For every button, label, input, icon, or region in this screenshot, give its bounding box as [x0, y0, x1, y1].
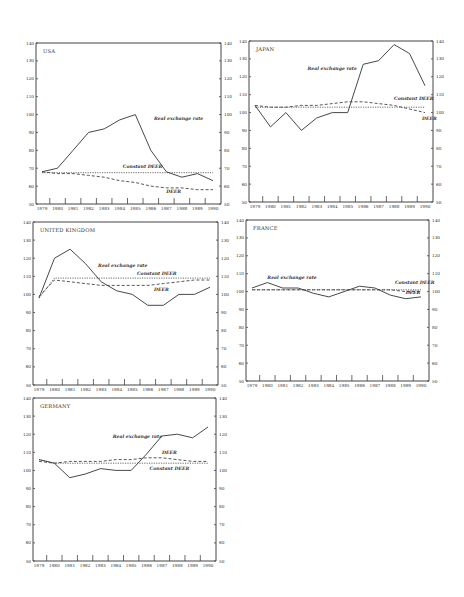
panel-title: FRANCE [253, 225, 278, 231]
y-tick-label-left: 60 [26, 364, 32, 369]
x-tick-label: 1990 [420, 204, 431, 209]
chart-panel-usa: 5050606070708080909010010011011012012013… [26, 41, 232, 212]
y-tick-label-left: 120 [23, 256, 31, 261]
y-tick-label-right: 90 [224, 130, 230, 135]
y-tick-label-left: 70 [26, 346, 32, 351]
x-tick-label: 1985 [130, 206, 141, 211]
y-tick-label-left: 100 [26, 112, 34, 117]
y-tick-label-left: 70 [239, 343, 245, 348]
y-tick-label-right: 80 [432, 325, 438, 330]
y-tick-label-right: 110 [219, 450, 227, 455]
y-tick-label-left: 140 [236, 218, 244, 223]
series-annotation: DEER [165, 189, 181, 194]
panel-title: UNITED KINGDOM [40, 227, 96, 233]
x-tick-label: 1979 [247, 383, 258, 388]
x-tick-label: 1990 [203, 563, 214, 568]
x-tick-label: 1988 [389, 204, 400, 209]
y-tick-label-left: 80 [26, 504, 32, 509]
y-tick-label-right: 70 [224, 166, 230, 171]
y-tick-label-left: 50 [29, 202, 35, 207]
x-tick-label: 1981 [281, 204, 292, 209]
y-tick-label-left: 120 [236, 253, 244, 258]
x-tick-label: 1980 [262, 383, 273, 388]
y-tick-label-right: 70 [219, 522, 225, 527]
series-deer [39, 280, 210, 296]
x-tick-label: 1989 [404, 204, 415, 209]
chart-panel-germany: 5050606070708080909010010011011012012013… [23, 396, 227, 569]
x-tick-label: 1983 [308, 383, 319, 388]
x-tick-label: 1979 [34, 387, 45, 392]
y-tick-label-right: 60 [221, 364, 227, 369]
chart-panel-japan: 5050606070708080909010010011011012012013… [239, 39, 444, 210]
y-tick-label-right: 80 [219, 504, 225, 509]
y-tick-label-left: 110 [239, 92, 247, 97]
y-tick-label-left: 50 [26, 383, 32, 388]
y-tick-label-left: 80 [26, 328, 32, 333]
y-tick-label-right: 120 [432, 253, 440, 258]
y-tick-label-right: 140 [221, 220, 229, 225]
y-tick-label-left: 60 [26, 540, 32, 545]
y-tick-label-right: 140 [436, 39, 444, 44]
x-tick-label: 1984 [114, 206, 125, 211]
y-tick-label-left: 130 [26, 58, 34, 63]
y-tick-label-left: 130 [23, 414, 31, 419]
x-tick-label: 1985 [339, 383, 350, 388]
x-tick-label: 1988 [177, 206, 188, 211]
x-tick-label: 1980 [49, 387, 60, 392]
y-tick-label-left: 60 [29, 184, 35, 189]
y-tick-label-left: 80 [239, 325, 245, 330]
plot-frame [246, 220, 429, 381]
x-tick-label: 1985 [342, 204, 353, 209]
y-tick-label-left: 70 [26, 522, 32, 527]
series-real-exchange-rate [42, 115, 213, 181]
series-deer [42, 172, 213, 190]
series-annotation: Constant DEER [394, 96, 434, 101]
x-tick-label: 1987 [373, 204, 384, 209]
x-tick-label: 1982 [293, 383, 304, 388]
x-tick-label: 1979 [34, 563, 45, 568]
y-tick-label-right: 90 [219, 486, 225, 491]
y-tick-label-left: 60 [242, 182, 248, 187]
x-tick-label: 1984 [323, 383, 334, 388]
x-tick-label: 1983 [311, 204, 322, 209]
y-tick-label-left: 80 [242, 146, 248, 151]
y-tick-label-right: 50 [221, 383, 227, 388]
y-tick-label-right: 70 [432, 343, 438, 348]
y-tick-label-left: 90 [239, 307, 245, 312]
y-tick-label-left: 120 [239, 74, 247, 79]
y-tick-label-right: 80 [224, 148, 230, 153]
y-tick-label-right: 140 [432, 218, 440, 223]
y-tick-label-left: 60 [239, 361, 245, 366]
series-annotation: Real exchange rate [307, 66, 357, 72]
y-tick-label-right: 70 [221, 346, 227, 351]
y-tick-label-right: 60 [436, 182, 442, 187]
y-tick-label-right: 130 [436, 56, 444, 61]
y-tick-label-left: 50 [26, 559, 32, 564]
x-tick-label: 1981 [277, 383, 288, 388]
y-tick-label-right: 50 [219, 559, 225, 564]
x-tick-label: 1989 [187, 563, 198, 568]
x-tick-label: 1979 [37, 206, 48, 211]
series-annotation: DEER [161, 450, 177, 455]
y-tick-label-right: 80 [221, 328, 227, 333]
y-tick-label-left: 90 [26, 310, 32, 315]
x-tick-label: 1982 [296, 204, 307, 209]
series-annotation: Constant DEER [150, 466, 190, 471]
y-tick-label-left: 110 [23, 274, 31, 279]
y-tick-label-right: 120 [219, 432, 227, 437]
y-tick-label-left: 140 [26, 41, 34, 46]
y-tick-label-right: 90 [221, 310, 227, 315]
series-constant-deer [39, 460, 208, 464]
x-tick-label: 1980 [265, 204, 276, 209]
y-tick-label-right: 50 [224, 202, 230, 207]
plot-frame [36, 43, 221, 204]
x-tick-label: 1982 [83, 206, 94, 211]
series-annotation: Real exchange rate [97, 263, 147, 269]
y-tick-label-right: 100 [224, 112, 232, 117]
x-tick-label: 1987 [370, 383, 381, 388]
series-annotation: Constant DEER [395, 280, 435, 285]
series-annotation: Constant DEER [123, 164, 163, 169]
y-tick-label-left: 100 [23, 292, 31, 297]
panel-title: GERMANY [40, 403, 71, 409]
x-tick-label: 1986 [142, 387, 153, 392]
